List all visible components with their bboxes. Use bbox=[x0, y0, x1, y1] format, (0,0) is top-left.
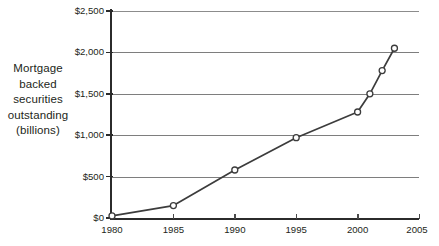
data-point-marker bbox=[391, 45, 397, 51]
data-series bbox=[0, 0, 439, 246]
chart-figure: Mortgage backed securities outstanding (… bbox=[0, 0, 439, 246]
data-point-marker bbox=[109, 213, 115, 219]
bottom-caption-sliver bbox=[6, 241, 266, 245]
series-line bbox=[112, 48, 394, 216]
series-markers bbox=[109, 45, 397, 219]
data-point-marker bbox=[367, 91, 373, 97]
data-point-marker bbox=[293, 135, 299, 141]
data-point-marker bbox=[379, 68, 385, 74]
data-point-marker bbox=[170, 203, 176, 209]
data-point-marker bbox=[232, 167, 238, 173]
data-point-marker bbox=[355, 109, 361, 115]
